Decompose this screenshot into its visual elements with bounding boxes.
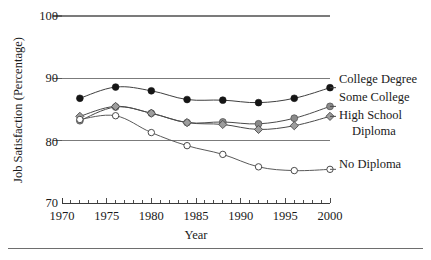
legend-label-high-school-diploma: Diploma (352, 124, 396, 138)
x-tick-label-1990: 1990 (228, 209, 253, 223)
x-tick-label-1985: 1985 (184, 209, 209, 223)
y-tick-label-100: 100 (39, 9, 58, 23)
series-college-degree-marker-2 (148, 87, 155, 94)
series-college-degree-marker-6 (291, 95, 298, 102)
x-axis-title: Year (184, 228, 208, 242)
legend-markers-group (330, 88, 336, 170)
series-no-diploma-marker-0 (77, 116, 83, 122)
gridlines-group (62, 16, 330, 141)
series-high-school-diploma-marker-2 (147, 109, 155, 117)
y-axis-title: Job Satisfaction (Percentage) (11, 37, 25, 183)
series-no-diploma-marker-6 (291, 167, 297, 173)
series-college-degree-marker-5 (255, 99, 262, 106)
series-some-college-marker-6 (291, 115, 298, 122)
x-tick-label-1995: 1995 (273, 209, 298, 223)
series-college-degree-marker-0 (76, 95, 83, 102)
line-chart: 100 90 80 70 1970 1975 1980 1985 1990 19… (0, 0, 431, 260)
series-college-degree-marker-4 (219, 97, 226, 104)
y-tick-label-80: 80 (46, 135, 59, 149)
series-high-school-diploma-marker-6 (290, 122, 298, 130)
x-tick-label-1980: 1980 (139, 209, 164, 223)
y-tick-label-90: 90 (46, 71, 59, 85)
data-series-layer (76, 84, 334, 174)
series-no-diploma-marker-2 (148, 129, 154, 135)
figure-container: 100 90 80 70 1970 1975 1980 1985 1990 19… (0, 0, 431, 260)
series-no-diploma-marker-4 (220, 151, 226, 157)
series-no-diploma-marker-3 (184, 142, 190, 148)
legend-label-some-college: Some College (339, 90, 410, 104)
series-high-school-diploma-marker-5 (254, 125, 262, 133)
legend-label-college-degree: College Degree (339, 72, 418, 86)
y-tick-label-70: 70 (46, 196, 59, 210)
series-no-diploma-marker-1 (112, 113, 118, 119)
x-axis (62, 198, 330, 203)
x-tick-label-2000: 2000 (318, 209, 343, 223)
legend-label-high-school: High School (339, 108, 402, 122)
series-college-degree-marker-1 (112, 84, 119, 91)
series-no-diploma-marker-5 (255, 164, 261, 170)
series-college-degree-marker-3 (184, 96, 191, 103)
x-tick-label-1970: 1970 (50, 209, 75, 223)
x-tick-label-1975: 1975 (94, 209, 119, 223)
series-high-school-diploma-marker-3 (183, 118, 191, 126)
legend-label-no-diploma: No Diploma (339, 157, 402, 171)
